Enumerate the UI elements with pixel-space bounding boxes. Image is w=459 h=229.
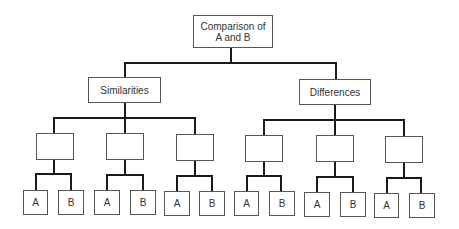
connector-diff2-down — [334, 162, 336, 177]
connector-sim2-b — [142, 174, 144, 191]
connector-sim-child-3 — [194, 117, 196, 134]
root-node-comparison: Comparison of A and B — [193, 15, 273, 48]
similarity-item-3 — [176, 134, 214, 161]
branch-node-differences: Differences — [299, 79, 371, 105]
connector-to-differences — [335, 62, 337, 79]
connector-diff3-down — [403, 163, 405, 178]
connector-sim2-horizontal — [106, 174, 144, 176]
connector-sim2-a — [106, 174, 108, 191]
leaf-diff3-a: A — [374, 193, 399, 218]
similarity-item-2 — [106, 133, 144, 160]
leaf-sim3-b: B — [199, 191, 225, 216]
leaf-sim2-b: B — [130, 190, 156, 215]
connector-diff2-a — [316, 176, 318, 192]
connector-root-horizontal — [124, 62, 337, 64]
leaf-diff1-a: A — [234, 191, 259, 216]
connector-diff-child-2 — [334, 119, 336, 136]
connector-sim3-b — [211, 175, 213, 191]
connector-sim1-horizontal — [35, 173, 72, 175]
leaf-diff1-b: B — [269, 191, 295, 216]
connector-sim1-a — [35, 173, 37, 190]
connector-diff3-horizontal — [386, 177, 422, 179]
difference-item-2 — [316, 135, 354, 162]
branch-node-similarities: Similarities — [88, 77, 161, 103]
root-label-line1: Comparison of — [200, 21, 265, 32]
connector-diff2-b — [352, 176, 354, 192]
leaf-diff2-a: A — [304, 192, 330, 217]
comparison-tree-diagram: Comparison of A and B Similarities A B A… — [0, 0, 459, 229]
leaf-sim1-a: A — [23, 190, 48, 215]
leaf-sim3-a: A — [164, 191, 190, 216]
connector-sim3-down — [194, 161, 196, 176]
differences-label: Differences — [310, 87, 360, 98]
connector-diff3-a — [386, 177, 388, 193]
connector-diff3-b — [420, 177, 422, 193]
connector-diff1-b — [280, 175, 282, 191]
leaf-sim2-a: A — [94, 190, 120, 215]
connector-sim3-a — [176, 175, 178, 191]
connector-diff-child-1 — [263, 119, 265, 136]
connector-sim3-horizontal — [176, 175, 213, 177]
connector-diff1-a — [246, 175, 248, 191]
root-label-line2: A and B — [215, 32, 250, 43]
connector-sim-child-2 — [124, 117, 126, 134]
connector-root-down — [230, 48, 232, 63]
connector-diff1-horizontal — [246, 175, 282, 177]
leaf-diff3-b: B — [409, 193, 435, 218]
similarities-label: Similarities — [100, 85, 148, 96]
connector-diff-child-3 — [403, 119, 405, 136]
difference-item-1 — [245, 135, 283, 162]
difference-item-3 — [385, 136, 423, 163]
similarity-item-1 — [36, 133, 74, 160]
connector-to-similarities — [124, 62, 126, 78]
leaf-sim1-b: B — [58, 190, 84, 215]
connector-diff2-horizontal — [316, 176, 354, 178]
connector-sim1-b — [70, 173, 72, 190]
connector-sim-child-1 — [53, 117, 55, 134]
connector-sim2-down — [124, 160, 126, 175]
leaf-diff2-b: B — [340, 192, 366, 217]
